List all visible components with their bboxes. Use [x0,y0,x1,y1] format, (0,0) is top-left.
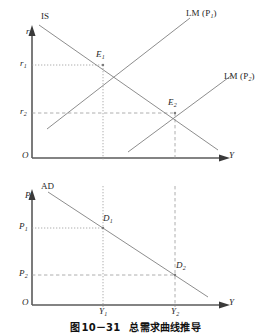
bottom-ytick-p2: P2 [19,269,28,278]
bottom-panel-group [29,186,231,309]
bottom-xtick-y2: Y2 [171,307,179,316]
is-curve-label: IS [41,12,49,21]
is-curve [39,25,218,150]
lm-p1-curve [47,18,190,129]
lm-p2-curve [128,75,232,152]
point-e2-marker [174,112,176,114]
caption-number: 10－31 [81,322,120,333]
lm-p1-curve-label: LM (P1) [186,9,216,18]
bottom-origin-label: O [22,298,29,307]
ad-curve [48,192,208,297]
caption-label: 图 [70,322,80,333]
figure-caption: 图10－31总需求曲线推导 [0,319,271,334]
caption-title: 总需求曲线推导 [129,322,200,333]
top-ytick-r2: r2 [20,107,27,116]
top-ytick-r1: r1 [20,59,27,68]
figure-container: r Y O r1 r2 IS LM (P1) LM (P2) E1 E2 P Y… [0,0,271,336]
bottom-xtick-y1: Y1 [99,307,107,316]
point-d1-label: D1 [103,214,113,223]
top-panel-group [29,18,233,162]
point-e1-label: E1 [96,50,105,59]
point-d2-label: D2 [176,261,186,270]
bottom-ytick-p1: P1 [19,222,28,231]
diagram-canvas [0,0,271,336]
lm-p2-curve-label: LM (P2) [224,72,254,81]
point-d1-marker [102,227,104,229]
point-d2-marker [174,274,176,276]
top-x-axis-label: Y [229,151,234,160]
bottom-y-axis-label: P [25,191,31,200]
point-e1-marker [102,64,104,66]
point-e2-label: E2 [168,98,177,107]
ad-curve-label: AD [41,182,54,191]
top-origin-label: O [22,151,29,160]
bottom-x-axis-label: Y [229,298,234,307]
top-y-axis-label: r [26,27,30,36]
